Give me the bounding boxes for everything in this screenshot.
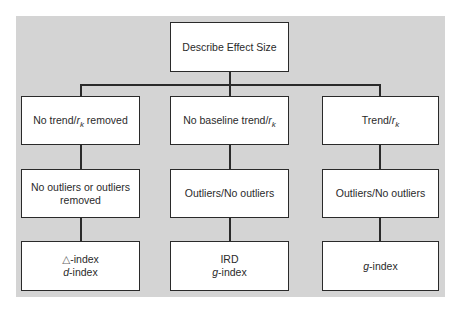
node-label: No baseline trend/rk xyxy=(183,114,276,127)
node-outliers-no-outliers-middle: Outliers/No outliers xyxy=(170,169,289,218)
connector-col1-l1-l2 xyxy=(80,144,82,170)
connector-col1-l2-l3 xyxy=(80,217,82,242)
node-label: Outliers/No outliers xyxy=(185,187,274,200)
label-line1: IRD xyxy=(220,253,238,265)
label-line1: No outliers or outliers xyxy=(31,181,130,193)
node-label: No trend/rk removed xyxy=(33,114,127,127)
node-label: Trend/rk xyxy=(362,114,399,127)
connector-col3-l1-l2 xyxy=(379,144,381,170)
node-label: No outliers or outliers removed xyxy=(31,181,130,207)
label-line2: -index xyxy=(218,266,247,278)
root-node-describe-effect-size: Describe Effect Size xyxy=(170,22,289,72)
node-no-baseline-trend-rk: No baseline trend/rk xyxy=(170,96,289,145)
connector-col3-l2-l3 xyxy=(379,217,381,242)
label-line2: -index xyxy=(69,266,98,278)
label-suffix: removed xyxy=(84,114,128,126)
label-prefix: No trend/ xyxy=(33,114,76,126)
label-prefix: Trend/ xyxy=(362,114,392,126)
node-delta-d-index: △-index d-index xyxy=(21,241,140,291)
label-line1: -index xyxy=(70,253,99,265)
node-outliers-no-outliers-right: Outliers/No outliers xyxy=(322,169,439,218)
node-label: △-index d-index xyxy=(62,253,99,279)
node-label: Outliers/No outliers xyxy=(336,187,425,200)
label-line2: removed xyxy=(60,194,101,206)
node-label: IRD g-index xyxy=(212,253,246,279)
label-subscript: k xyxy=(395,120,399,129)
label-prefix: No baseline trend/ xyxy=(183,114,268,126)
node-g-index: g-index xyxy=(322,241,439,291)
label-subscript: k xyxy=(272,120,276,129)
connector-horizontal-bar xyxy=(80,84,381,86)
root-node-label: Describe Effect Size xyxy=(182,41,276,54)
connector-col2-l1-l2 xyxy=(229,144,231,170)
node-trend-rk: Trend/rk xyxy=(322,96,439,145)
connector-col2-l2-l3 xyxy=(229,217,231,242)
node-ird-g-index: IRD g-index xyxy=(170,241,289,291)
label-line1: -index xyxy=(369,260,398,272)
node-label: g-index xyxy=(363,260,397,273)
node-no-trend-rk-removed: No trend/rk removed xyxy=(21,96,140,145)
node-no-outliers-or-removed: No outliers or outliers removed xyxy=(21,169,140,218)
